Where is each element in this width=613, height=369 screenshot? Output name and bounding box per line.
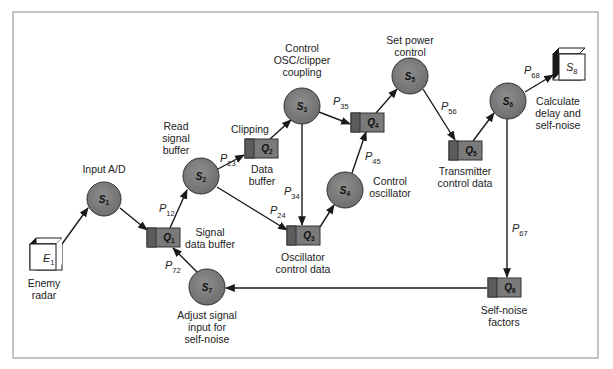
queue-q3-label-2: control data	[276, 263, 331, 275]
state-s7: S7	[189, 269, 225, 305]
queue-q5-label-1: Transmitter	[439, 165, 492, 177]
edge-label-p68: P68	[524, 64, 540, 80]
state-s4-label-1: Control	[373, 175, 407, 187]
state-s2: S2	[183, 158, 219, 194]
queue-q5: Q5	[449, 141, 482, 160]
state-s2-label-1: Read	[163, 120, 188, 132]
state-s1: S1	[87, 182, 121, 216]
queue-q2-label-above: Clipping	[231, 123, 269, 135]
edge-e1-s1	[62, 208, 88, 244]
edge-q3-s4	[320, 205, 334, 227]
edge-label-p67: P67	[512, 222, 528, 238]
state-s2-label-2: signal	[162, 132, 189, 144]
external-e1-label-2: radar	[32, 289, 57, 301]
edge-label-p12: P12	[159, 202, 175, 218]
queue-q3: Q3	[287, 226, 320, 245]
edge-q5-s6	[473, 113, 494, 141]
queue-q2-label-below-1: Data	[251, 163, 273, 175]
state-s6-label-1: Calculate	[536, 95, 580, 107]
state-s5-label-2: control	[394, 46, 426, 58]
state-s6-label-2: delay and	[535, 107, 581, 119]
edge-label-p34: P34	[284, 185, 300, 201]
state-s2-label-3: buffer	[163, 144, 190, 156]
state-s5: S5	[392, 58, 428, 94]
state-s1-label: Input A/D	[82, 163, 126, 175]
edge-s3-q4	[319, 112, 350, 124]
edge-label-p23: P23	[220, 152, 236, 168]
state-transition-diagram: E1 Enemy radar S8 S1 Input A/D S2 Read s…	[0, 0, 613, 369]
edge-s4-q4	[352, 132, 366, 173]
external-s8: S8	[553, 48, 585, 80]
state-s3-label-3: coupling	[282, 66, 321, 78]
external-e1-label-1: Enemy	[28, 277, 61, 289]
state-s5-label-1: Set power	[386, 34, 434, 46]
edge-q4-s5	[376, 89, 397, 113]
queue-q2-label-below-2: buffer	[249, 175, 276, 187]
edge-label-p45: P45	[365, 150, 381, 166]
queue-q6-label-1: Self-noise	[481, 304, 528, 316]
edge-s1-q1	[120, 208, 147, 230]
edge-q2-s3	[270, 120, 291, 139]
state-s3: S3	[284, 88, 320, 124]
state-s4-label-2: oscillator	[369, 187, 411, 199]
state-s7-label-2: input for	[188, 321, 226, 333]
edge-label-p72: P72	[165, 259, 181, 275]
state-s3-label-2: OSC/clipper	[274, 54, 331, 66]
queue-q4: Q4	[351, 113, 384, 132]
queue-q1-label-1: Signal	[195, 226, 224, 238]
queue-q6: Q6	[488, 278, 521, 297]
state-s7-label-3: self-noise	[185, 333, 230, 345]
queue-q6-label-2: factors	[488, 316, 520, 328]
queue-q1-label-2: data buffer	[185, 238, 236, 250]
external-e1: E1	[24, 238, 62, 276]
state-s4: S4	[327, 172, 363, 208]
state-s6: S6	[490, 83, 526, 119]
edge-label-p35: P35	[333, 95, 349, 111]
queue-q2: Q2	[245, 139, 278, 158]
edge-label-p24: P24	[270, 204, 286, 220]
state-s7-label-1: Adjust signal	[177, 309, 237, 321]
state-s3-label-1: Control	[285, 42, 319, 54]
state-s6-label-3: self-noise	[536, 119, 581, 131]
queue-q1: Q1	[147, 228, 180, 247]
queue-q3-label-1: Oscillator	[281, 251, 325, 263]
queue-q5-label-2: control data	[438, 177, 493, 189]
edge-label-p56: P56	[441, 100, 457, 116]
